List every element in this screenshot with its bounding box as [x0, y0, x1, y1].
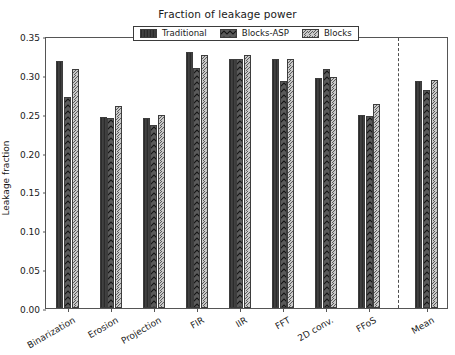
chart-title: Fraction of leakage power	[0, 8, 455, 20]
bars-layer	[46, 38, 447, 308]
bar-blocks	[72, 69, 79, 308]
bar-traditional	[186, 52, 193, 308]
plot-area: Leakage fraction 0.000.050.100.150.200.2…	[45, 37, 448, 309]
bar-group	[415, 38, 437, 308]
bar-blocks-asp	[423, 90, 430, 308]
bar-blocks	[373, 104, 380, 308]
bar-group	[100, 38, 122, 308]
bar-group	[315, 38, 337, 308]
bar-group	[143, 38, 165, 308]
x-tick-mark	[240, 308, 241, 312]
x-tick-mark	[283, 308, 284, 312]
x-tick-mark	[326, 308, 327, 312]
bar-traditional	[143, 118, 150, 308]
bar-traditional	[272, 59, 279, 308]
x-tick-mark	[369, 308, 370, 312]
x-tick-mark	[197, 308, 198, 312]
legend-label: Blocks	[324, 29, 352, 38]
bar-blocks	[330, 77, 337, 308]
legend-item-blocks[interactable]: Blocks	[302, 29, 352, 38]
bar-blocks	[201, 55, 208, 308]
bar-blocks	[115, 106, 122, 308]
x-tick-mark	[68, 308, 69, 312]
bar-traditional	[56, 61, 63, 308]
bar-blocks-asp	[280, 81, 287, 308]
bar-group	[272, 38, 294, 308]
bar-traditional	[229, 59, 236, 308]
bar-blocks	[158, 115, 165, 308]
bar-blocks-asp	[236, 59, 243, 308]
x-tick-mark	[111, 308, 112, 312]
legend-label: Blocks-ASP	[242, 29, 289, 38]
bar-traditional	[100, 117, 107, 308]
bar-blocks	[287, 59, 294, 308]
legend-item-blocks-asp[interactable]: Blocks-ASP	[220, 29, 289, 38]
bar-blocks-asp	[323, 69, 330, 308]
bar-group	[358, 38, 380, 308]
bar-traditional	[415, 81, 422, 308]
bar-blocks-asp	[193, 68, 200, 308]
x-tick-mark	[154, 308, 155, 312]
mean-separator-line	[398, 38, 399, 308]
bar-group	[186, 38, 208, 308]
legend-swatch-icon	[302, 29, 319, 38]
bar-blocks-asp	[64, 97, 71, 308]
bar-blocks	[431, 80, 438, 308]
bar-group	[56, 38, 78, 308]
legend-swatch-icon	[140, 29, 157, 38]
bar-blocks-asp	[107, 118, 114, 308]
bar-blocks-asp	[366, 116, 373, 308]
y-axis-label: Leakage fraction	[1, 98, 11, 258]
bar-traditional	[358, 115, 365, 308]
chart-figure: Fraction of leakage power Leakage fracti…	[0, 0, 455, 355]
y-tick-mark	[43, 310, 47, 311]
legend-swatch-icon	[220, 29, 237, 38]
legend-label: Traditional	[162, 29, 207, 38]
bar-blocks	[244, 55, 251, 308]
legend-item-traditional[interactable]: Traditional	[140, 29, 207, 38]
bar-blocks-asp	[150, 125, 157, 308]
bar-traditional	[315, 78, 322, 308]
chart-legend: TraditionalBlocks-ASPBlocks	[133, 26, 359, 41]
bar-group	[229, 38, 251, 308]
x-tick-mark	[427, 308, 428, 312]
